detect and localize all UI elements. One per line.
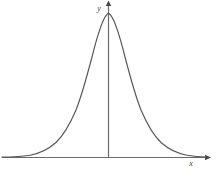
y-axis-arrow-icon	[106, 1, 112, 6]
normal-distribution-figure: y x	[0, 0, 220, 177]
normal-distribution-curve	[2, 13, 206, 157]
y-axis-label: y	[96, 4, 101, 13]
plot-canvas: y x	[0, 0, 220, 177]
x-axis-label: x	[188, 159, 193, 168]
